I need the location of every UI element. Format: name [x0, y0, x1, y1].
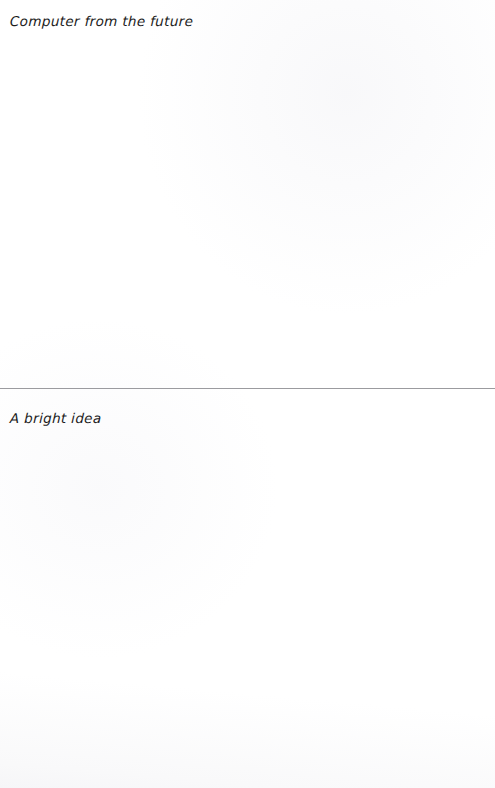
section-computer-from-the-future: Computer from the future: [0, 0, 495, 389]
scanned-page: Computer from the future A bright idea: [0, 0, 495, 788]
section-a-bright-idea: A bright idea: [0, 389, 495, 788]
content-area-top: [0, 40, 495, 385]
page-title: Computer from the future: [10, 13, 194, 30]
content-area-bottom: [0, 434, 495, 784]
section-title: A bright idea: [10, 410, 102, 427]
